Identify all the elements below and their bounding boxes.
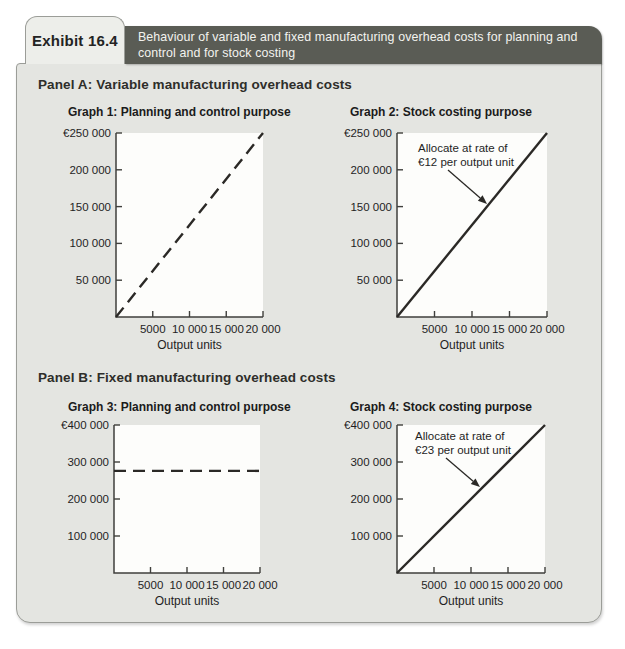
exhibit-page: Exhibit 16.4 Behaviour of variable and f…	[0, 0, 625, 649]
svg-text:15 000: 15 000	[206, 579, 241, 591]
svg-text:200 000: 200 000	[350, 164, 392, 176]
svg-text:€250 000: €250 000	[344, 127, 392, 139]
svg-text:5000: 5000	[421, 579, 447, 591]
svg-text:200 000: 200 000	[67, 493, 109, 505]
svg-text:Allocate at rate of: Allocate at rate of	[418, 142, 508, 154]
svg-text:15 000: 15 000	[492, 323, 527, 335]
svg-text:150 000: 150 000	[350, 201, 392, 213]
svg-text:Output units: Output units	[157, 338, 222, 352]
svg-text:50 000: 50 000	[357, 274, 392, 286]
svg-text:Output units: Output units	[440, 338, 505, 352]
svg-text:Output units: Output units	[155, 594, 220, 608]
svg-text:20 000: 20 000	[245, 323, 280, 335]
svg-text:20 000: 20 000	[529, 323, 564, 335]
svg-text:200 000: 200 000	[69, 164, 111, 176]
svg-text:10 000: 10 000	[169, 579, 204, 591]
svg-text:150 000: 150 000	[69, 201, 111, 213]
svg-text:5000: 5000	[422, 323, 448, 335]
svg-text:300 000: 300 000	[67, 456, 109, 468]
svg-text:100 000: 100 000	[67, 530, 109, 542]
svg-text:€400 000: €400 000	[344, 419, 392, 431]
svg-text:€12 per output unit: €12 per output unit	[418, 156, 515, 168]
svg-text:15 000: 15 000	[209, 323, 244, 335]
svg-text:15 000: 15 000	[490, 579, 525, 591]
svg-text:100 000: 100 000	[69, 237, 111, 249]
svg-text:€250 000: €250 000	[63, 127, 111, 139]
svg-text:Allocate at rate of: Allocate at rate of	[415, 430, 505, 442]
svg-text:50 000: 50 000	[76, 274, 111, 286]
svg-text:100 000: 100 000	[350, 530, 392, 542]
svg-text:Output units: Output units	[439, 594, 504, 608]
svg-text:10 000: 10 000	[172, 323, 207, 335]
svg-text:10 000: 10 000	[453, 579, 488, 591]
svg-text:20 000: 20 000	[527, 579, 562, 591]
svg-text:100 000: 100 000	[350, 237, 392, 249]
svg-text:200 000: 200 000	[350, 493, 392, 505]
svg-text:300 000: 300 000	[350, 456, 392, 468]
svg-text:5000: 5000	[140, 323, 166, 335]
svg-text:20 000: 20 000	[242, 579, 277, 591]
charts-canvas: 50 000100 000150 000200 000€250 00050001…	[0, 0, 625, 649]
svg-text:€23 per output unit: €23 per output unit	[415, 444, 512, 456]
svg-text:5000: 5000	[138, 579, 164, 591]
svg-text:€400 000: €400 000	[61, 419, 109, 431]
svg-text:10 000: 10 000	[454, 323, 489, 335]
